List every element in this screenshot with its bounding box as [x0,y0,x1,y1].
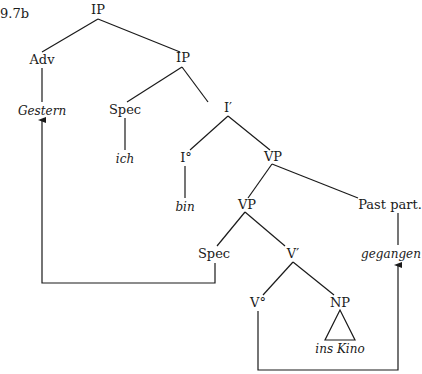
word-gegangen: gegangen [361,246,421,262]
word-gestern: Gestern [18,103,66,119]
node-ip-root: IP [91,2,105,18]
word-ins-kino: ins Kino [315,341,364,357]
word-bin: bin [175,199,194,215]
example-number: 9.7b [0,6,29,21]
node-i-bar: I′ [224,100,232,116]
node-v-zero: V° [250,295,266,311]
word-ich: ich [116,151,134,167]
node-ip-inner: IP [176,50,190,66]
node-v-bar: V′ [287,246,299,262]
node-spec-lower: Spec [198,246,230,262]
node-vp-lower: VP [238,197,256,213]
node-spec-upper: Spec [109,102,141,118]
node-adv: Adv [29,52,54,68]
node-vp-upper: VP [264,149,282,165]
node-past-part: Past part. [358,197,422,213]
node-i-zero: I° [180,150,192,166]
node-np: NP [330,295,350,311]
